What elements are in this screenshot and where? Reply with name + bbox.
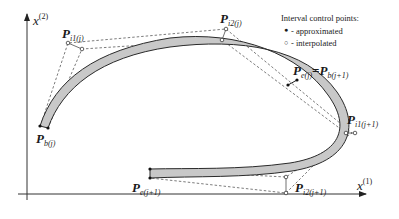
label-sub: i2(j) (228, 19, 242, 28)
label-p-i1-j1: Pi1(j+1) (347, 113, 378, 129)
label-base: P (220, 11, 228, 26)
label-p-e-j-eq-p-b-j1: Pe(j)=Pb(j+1) (293, 64, 348, 80)
spline-band (40, 37, 349, 178)
label-p-i1-j: Pi1(j) (62, 27, 84, 43)
legend: Interval control points: ● - approximate… (281, 14, 359, 48)
x-axis-label: x(1) (357, 178, 372, 192)
label-base: P (295, 180, 303, 195)
y-axis-label-sup: (2) (39, 12, 48, 21)
label-p-e-j1: Pe(j+1) (132, 181, 160, 197)
legend-item-approximated: ● - approximated (281, 27, 359, 36)
label-base: P (36, 131, 44, 146)
legend-title: Interval control points: (281, 14, 359, 23)
label-base: P (293, 63, 301, 78)
label-p-i2-j1: Pi2(j+1) (295, 181, 326, 197)
label-p-i2-j: Pi2(j) (220, 12, 242, 28)
x-axis-label-sup: (1) (363, 177, 372, 186)
approximated-points (38, 78, 298, 179)
y-axis-label: x(2) (33, 13, 48, 27)
label-sub: b(j+1) (327, 71, 348, 80)
label-base: P (132, 180, 140, 195)
label-base: P (62, 26, 70, 41)
label-base: P (347, 112, 355, 127)
legend-item-interpolated: ○ - interpolated (281, 39, 359, 48)
label-sub: e(j+1) (140, 188, 161, 197)
legend-item-label: - approximated (291, 27, 343, 36)
legend-item-label: - interpolated (291, 39, 337, 48)
diagram-canvas: x(2) x(1) Pi1(j) Pi2(j) Pe(j)=Pb(j+1) Pi… (0, 0, 399, 219)
label-sub: e(j) (301, 71, 312, 80)
label-p-b-j: Pb(j) (36, 132, 56, 148)
filled-dot-icon: ● (281, 27, 291, 34)
label-sub: i1(j) (70, 34, 84, 43)
hollow-dot-icon: ○ (281, 40, 291, 47)
label-sub: i2(j+1) (303, 188, 326, 197)
label-sub: i1(j+1) (355, 120, 378, 129)
label-sub: b(j) (44, 139, 56, 148)
